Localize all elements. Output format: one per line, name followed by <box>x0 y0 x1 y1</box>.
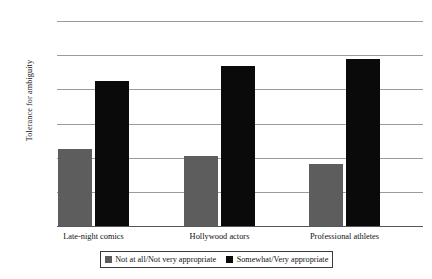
gridline <box>57 21 423 22</box>
gridline <box>57 55 423 56</box>
y-axis-title: Tolerance for ambiguity <box>25 16 34 186</box>
legend-item-label: Not at all/Not very appropriate <box>115 255 216 264</box>
bar <box>184 156 218 226</box>
bar <box>58 149 92 226</box>
x-axis-tick-label: Late-night comics <box>24 232 164 241</box>
plot-area <box>57 21 423 226</box>
legend-swatch-gray <box>105 256 112 263</box>
x-axis-tick-label: Professional athletes <box>275 232 415 241</box>
bar <box>346 59 380 226</box>
bar <box>95 81 129 226</box>
bar-chart: Tolerance for ambiguity 2.62.552.52.452.… <box>0 0 432 279</box>
legend-item-label: Somewhat/Very appropriate <box>237 255 329 264</box>
legend-item: Somewhat/Very appropriate <box>226 255 328 264</box>
legend-item: Not at all/Not very appropriate <box>105 255 216 264</box>
bar <box>309 164 343 226</box>
legend-swatch-black <box>226 256 233 263</box>
chart-legend: Not at all/Not very appropriateSomewhat/… <box>100 251 333 268</box>
gridline <box>57 226 423 227</box>
bar <box>221 66 255 226</box>
x-axis-tick-label: Hollywood actors <box>150 232 290 241</box>
